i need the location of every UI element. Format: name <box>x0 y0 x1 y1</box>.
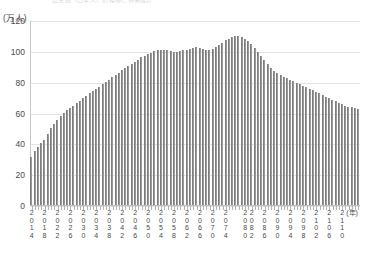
bar <box>34 151 36 206</box>
x-axis-tick-label: 2050 <box>146 209 150 239</box>
bar <box>322 95 324 206</box>
y-axis-tick-labels: 020406080100120 <box>0 21 28 206</box>
bar <box>273 71 275 206</box>
bar <box>173 52 175 206</box>
x-axis-tick-label: 2102 <box>314 209 318 239</box>
bar <box>170 51 172 206</box>
x-axis-tick-labels: 2014201820222026203020342038204220462050… <box>30 209 369 254</box>
x-axis-tick-label: 2026 <box>68 209 72 239</box>
y-axis-tick-label: 0 <box>20 201 25 211</box>
bar <box>221 43 223 206</box>
bar <box>302 86 304 206</box>
bar-series <box>30 21 360 206</box>
bar <box>69 108 71 206</box>
x-axis-unit-label: (年) <box>346 209 358 217</box>
x-axis-tick-label: 2070 <box>211 209 215 239</box>
y-axis-tick-label: 120 <box>11 16 25 26</box>
bar <box>344 106 346 206</box>
bar <box>118 73 120 206</box>
x-axis-tick-label: 2090 <box>276 209 280 239</box>
x-axis-tick-label: 2094 <box>288 209 292 239</box>
x-axis-tick-label: 2086 <box>263 209 267 239</box>
bar <box>98 87 100 206</box>
bar <box>208 50 210 206</box>
bar <box>335 101 337 206</box>
bar <box>150 53 152 206</box>
bar <box>199 48 201 206</box>
x-axis-tick-label: 2014 <box>30 209 34 239</box>
bar <box>157 50 159 206</box>
bar <box>299 84 301 206</box>
bar <box>92 91 94 206</box>
y-axis-tick-label: 80 <box>16 78 25 88</box>
bar <box>186 50 188 206</box>
bar <box>105 82 107 206</box>
bar <box>102 84 104 206</box>
bar <box>325 97 327 206</box>
bar <box>66 110 68 206</box>
bar <box>247 41 249 206</box>
bar <box>43 140 45 206</box>
bar <box>72 106 74 206</box>
bar <box>82 98 84 206</box>
x-axis-tick-label: 2082 <box>250 209 254 239</box>
bar <box>351 107 353 206</box>
bar <box>312 90 314 206</box>
y-axis-tick-label: 20 <box>16 170 25 180</box>
bar <box>292 81 294 206</box>
bar <box>315 92 317 206</box>
bar <box>124 68 126 206</box>
bar <box>147 54 149 206</box>
bar <box>280 75 282 206</box>
plot-area <box>30 21 360 206</box>
bar <box>40 143 42 206</box>
bar <box>127 66 129 206</box>
x-axis-tick-label: 2110 <box>340 209 344 239</box>
bar <box>305 87 307 206</box>
y-axis-tick-label: 40 <box>16 139 25 149</box>
bar <box>140 57 142 206</box>
x-axis-tick-label: 2098 <box>301 209 305 239</box>
bar <box>202 49 204 206</box>
x-axis-tick-label: 2046 <box>133 209 137 239</box>
x-axis-tick-label: 2038 <box>107 209 111 239</box>
x-axis-tick-label: 2034 <box>94 209 98 239</box>
bar <box>283 77 285 207</box>
bar <box>250 44 252 206</box>
y-axis-tick-label: 60 <box>16 109 25 119</box>
bar <box>244 39 246 206</box>
bar <box>263 60 265 206</box>
bar <box>131 64 133 206</box>
x-axis-tick-label: 2042 <box>120 209 124 239</box>
bar <box>108 80 110 206</box>
bar <box>260 56 262 206</box>
bar <box>111 77 113 206</box>
bar <box>63 113 65 206</box>
bar <box>179 51 181 206</box>
bar <box>53 124 55 206</box>
bar <box>189 49 191 206</box>
x-axis-tick-label: 2058 <box>172 209 176 239</box>
bar <box>234 36 236 206</box>
bar <box>289 80 291 206</box>
bar <box>153 51 155 206</box>
bar <box>338 103 340 206</box>
bar <box>160 50 162 206</box>
bar <box>95 89 97 206</box>
x-axis-tick-label: 2074 <box>224 209 228 239</box>
chart-root: 出生数（日本人）の推移と将来推計 (万人) 020406080100120 20… <box>0 0 369 260</box>
bar <box>137 60 139 206</box>
bar <box>309 89 311 206</box>
bar <box>276 73 278 206</box>
bar <box>215 47 217 206</box>
bar <box>357 109 359 206</box>
bar <box>144 56 146 206</box>
bar <box>50 128 52 206</box>
bar <box>30 157 32 206</box>
bar <box>121 70 123 206</box>
bar <box>205 50 207 206</box>
bar <box>47 134 49 206</box>
bar <box>254 48 256 206</box>
bar <box>115 75 117 206</box>
y-axis-tick-label: 100 <box>11 47 25 57</box>
